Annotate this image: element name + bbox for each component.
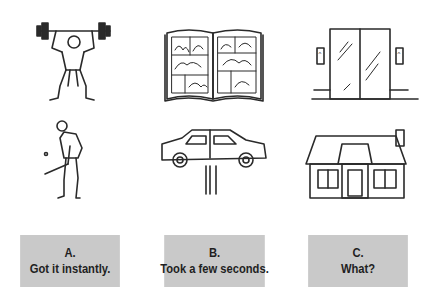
golfer-illustration xyxy=(40,118,96,200)
option-a-text: Got it instantly. xyxy=(30,261,111,277)
option-b-letter: B. xyxy=(209,245,220,261)
option-a[interactable]: A. Got it instantly. xyxy=(20,235,120,287)
comic-book-illustration xyxy=(163,25,265,103)
option-c[interactable]: C. What? xyxy=(308,235,408,287)
weightlifter-illustration xyxy=(34,18,114,103)
car-on-lift-illustration xyxy=(158,128,270,196)
option-c-letter: C. xyxy=(352,245,363,261)
option-b-text: Took a few seconds. xyxy=(160,261,269,277)
option-a-letter: A. xyxy=(64,245,75,261)
house-illustration xyxy=(304,128,416,202)
elevator-illustration: ^ ^ xyxy=(310,26,420,102)
option-b[interactable]: B. Took a few seconds. xyxy=(164,235,265,287)
svg-text:^: ^ xyxy=(398,51,401,57)
option-c-text: What? xyxy=(341,261,375,277)
svg-text:^: ^ xyxy=(319,51,322,57)
